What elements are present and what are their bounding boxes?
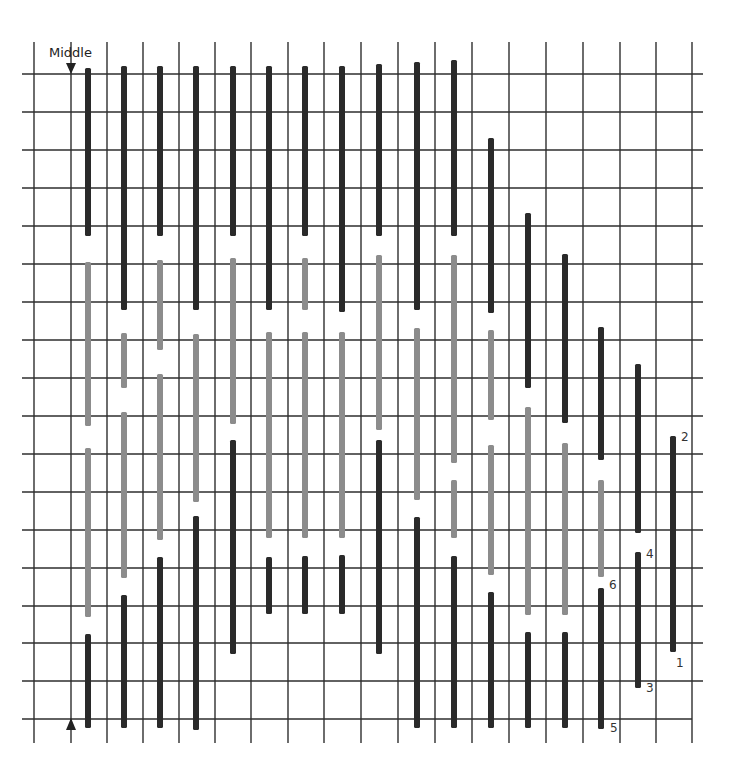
dark-stitch (157, 66, 163, 236)
dark-stitch (525, 213, 531, 388)
dark-stitch (121, 595, 127, 728)
dark-stitch (230, 440, 236, 654)
dark-stitch (635, 552, 641, 688)
stitch-column (451, 60, 457, 728)
dark-stitch (193, 66, 199, 310)
stitch-column (562, 254, 568, 728)
dark-stitch (635, 364, 641, 533)
stitch-column (635, 364, 641, 688)
dark-stitch (85, 634, 91, 728)
light-stitch (121, 333, 127, 388)
dark-stitch (339, 555, 345, 614)
dark-stitch (598, 327, 604, 460)
light-stitch (598, 480, 604, 577)
dark-stitch (85, 68, 91, 236)
stitch-order-number: 1 (676, 656, 684, 670)
stitch-column (598, 327, 604, 729)
dark-stitch (302, 556, 308, 614)
dark-stitch (414, 62, 420, 310)
middle-label: Middle (49, 45, 92, 60)
dark-stitch (598, 588, 604, 729)
light-stitch (157, 260, 163, 350)
light-stitch (376, 255, 382, 430)
dark-stitch (230, 66, 236, 236)
stitch-column (121, 66, 127, 728)
light-stitch (488, 330, 494, 420)
light-stitch (157, 374, 163, 540)
stitch-order-number: 2 (681, 430, 689, 444)
stitch-column (157, 66, 163, 728)
light-stitch (121, 412, 127, 578)
light-stitch (266, 332, 272, 538)
stitch-order-number: 3 (646, 681, 654, 695)
light-stitch (414, 328, 420, 500)
light-stitch (525, 407, 531, 615)
stitch-column (670, 436, 676, 652)
light-stitch (193, 334, 199, 502)
dark-stitch (157, 557, 163, 728)
dark-stitch (376, 64, 382, 236)
dark-stitch (562, 632, 568, 728)
light-stitch (562, 443, 568, 615)
dark-stitch (414, 517, 420, 728)
arrow-up-icon (66, 718, 76, 730)
dark-stitch (451, 60, 457, 236)
stitch-column (266, 66, 272, 614)
light-stitch (339, 332, 345, 538)
arrow-down-icon (66, 63, 76, 74)
stitch-column (230, 66, 236, 654)
light-stitch (488, 445, 494, 575)
stitch-columns (85, 60, 676, 730)
light-stitch (302, 332, 308, 538)
light-stitch (230, 258, 236, 424)
dark-stitch (451, 556, 457, 728)
dark-stitch (376, 440, 382, 654)
stitch-column (85, 68, 91, 728)
stitch-column (488, 138, 494, 728)
stitch-column (339, 66, 345, 614)
dark-stitch (302, 66, 308, 236)
light-stitch (302, 258, 308, 310)
stitch-order-number: 5 (610, 721, 618, 735)
stitch-column (414, 62, 420, 728)
dark-stitch (193, 516, 199, 730)
dark-stitch (121, 66, 127, 310)
stitch-order-number: 4 (646, 547, 654, 561)
dark-stitch (488, 592, 494, 728)
dark-stitch (488, 138, 494, 313)
light-stitch (85, 448, 91, 617)
light-stitch (451, 480, 457, 538)
dark-stitch (525, 632, 531, 728)
bargello-chart: Middle 123456 (0, 0, 743, 784)
dark-stitch (266, 66, 272, 310)
stitch-column (525, 213, 531, 728)
light-stitch (85, 262, 91, 426)
stitch-column (302, 66, 308, 614)
dark-stitch (339, 66, 345, 312)
dark-stitch (670, 436, 676, 652)
stitch-order-number: 6 (609, 578, 617, 592)
light-stitch (451, 255, 457, 463)
stitch-column (376, 64, 382, 654)
stitch-column (193, 66, 199, 730)
stitch-order-labels: 123456 (609, 430, 689, 735)
dark-stitch (266, 557, 272, 614)
dark-stitch (562, 254, 568, 423)
